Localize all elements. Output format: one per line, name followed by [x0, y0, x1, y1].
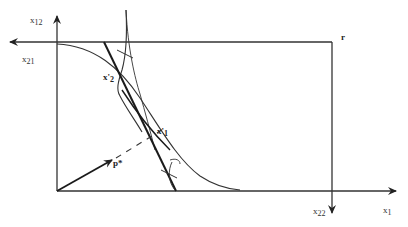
offer-curve-segment: [122, 90, 170, 150]
label-x22: x22: [313, 206, 326, 218]
label-x21: x21: [22, 54, 35, 66]
label-x-prime-1: x'1: [157, 126, 168, 138]
label-p-star: p*: [113, 158, 123, 168]
label-r: r: [341, 32, 345, 42]
label-x1: x1: [383, 205, 392, 217]
label-x12: x12: [30, 15, 43, 27]
label-x-prime-2: x'2: [103, 72, 114, 84]
price-vector-p-star: [57, 160, 112, 191]
edgeworth-box-diagram: x12 x21 x22 x1 r x'2 x'1 p*: [0, 0, 408, 227]
indifference-curve-agent1: [57, 44, 240, 190]
